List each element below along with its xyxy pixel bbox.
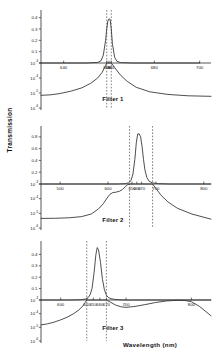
y-tick-label: 0.3 bbox=[31, 263, 38, 268]
transmission-curve-linear bbox=[41, 19, 200, 63]
panel-title: Filter 1 bbox=[102, 96, 124, 102]
y-tick-label: 0.1 bbox=[31, 286, 38, 291]
filter-transmission-figure: Transmission 0.10.20.30.410-310-410-510-… bbox=[0, 0, 214, 355]
y-tick-exponent: -4 bbox=[36, 74, 39, 78]
y-tick-label: 0.2 bbox=[31, 170, 38, 175]
y-tick-exponent: -3 bbox=[36, 59, 39, 63]
y-tick-label: 0.1 bbox=[31, 49, 38, 54]
y-tick-exponent: -6 bbox=[36, 337, 39, 341]
transmission-curve-log bbox=[41, 184, 211, 219]
x-axis-title: Wavelength (nm) bbox=[123, 341, 177, 348]
chart-panel-2: 0.20.40.60.810-310-410-510-6500600650660… bbox=[30, 126, 211, 231]
y-tick-exponent: -3 bbox=[36, 296, 39, 300]
panel-title: Filter 3 bbox=[102, 325, 124, 331]
y-tick-exponent: -3 bbox=[36, 180, 39, 184]
x-tick-label: 700 bbox=[122, 302, 130, 307]
y-tick-label: 0.4 bbox=[31, 252, 38, 257]
transmission-curve-linear bbox=[41, 134, 211, 184]
y-tick-label: 0.8 bbox=[31, 134, 38, 139]
y-tick-exponent: -5 bbox=[36, 210, 39, 214]
x-tick-label: 800 bbox=[200, 186, 208, 191]
y-tick-exponent: -5 bbox=[36, 324, 39, 328]
y-tick-exponent: -4 bbox=[36, 310, 39, 314]
y-tick-label: 0.4 bbox=[31, 158, 38, 163]
y-tick-exponent: -4 bbox=[36, 195, 39, 199]
y-tick-label: 0.6 bbox=[31, 146, 38, 151]
y-tick-exponent: -6 bbox=[36, 104, 39, 108]
x-tick-label: 680 bbox=[151, 65, 159, 70]
y-tick-label: 0.3 bbox=[31, 27, 38, 32]
y-tick-label: 0.4 bbox=[31, 15, 38, 20]
x-tick-label: 640 bbox=[60, 65, 68, 70]
panel-title: Filter 2 bbox=[102, 217, 124, 223]
y-tick-label: 0.2 bbox=[31, 38, 38, 43]
x-tick-label: 500 bbox=[57, 186, 65, 191]
x-tick-label: 670 bbox=[138, 186, 146, 191]
chart-panel-3: 0.10.20.30.410-310-410-510-6600640650660… bbox=[30, 241, 211, 344]
x-tick-label: 600 bbox=[104, 186, 112, 191]
panels-group: 0.10.20.30.410-310-410-510-6640659660661… bbox=[30, 10, 211, 344]
y-tick-exponent: -5 bbox=[36, 89, 39, 93]
figure-canvas: Transmission 0.10.20.30.410-310-410-510-… bbox=[0, 0, 214, 355]
transmission-curve-linear bbox=[41, 248, 211, 300]
y-tick-exponent: -6 bbox=[36, 224, 39, 228]
x-tick-label: 700 bbox=[196, 65, 204, 70]
y-tick-label: 0.2 bbox=[31, 275, 38, 280]
y-axis-title: Transmission bbox=[6, 108, 13, 153]
chart-panel-1: 0.10.20.30.410-310-410-510-6640659660661… bbox=[30, 10, 211, 111]
y-axis-title-group: Transmission bbox=[6, 108, 13, 153]
x-tick-label: 600 bbox=[57, 302, 65, 307]
